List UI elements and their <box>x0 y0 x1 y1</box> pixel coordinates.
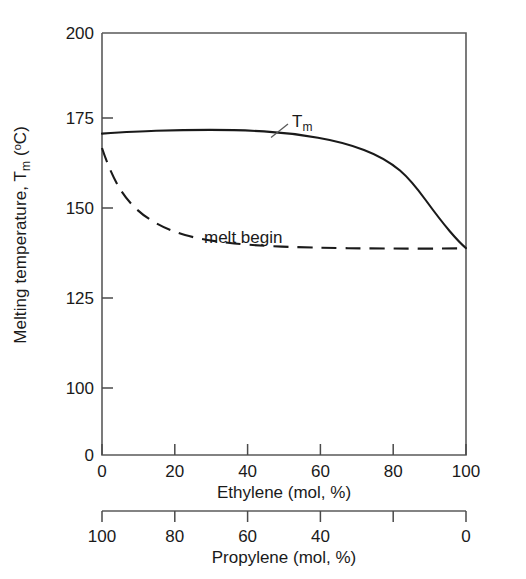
secondary-x-tick-label-100: 100 <box>88 528 116 545</box>
secondary-x-axis-ticks <box>102 511 466 522</box>
secondary-x-tick-label-60: 60 <box>238 528 257 545</box>
x-tick-label-80: 80 <box>384 463 403 480</box>
series-label-tm: Tm <box>292 113 312 133</box>
secondary-x-axis <box>102 511 466 522</box>
x-axis-ticks <box>102 444 466 455</box>
secondary-x-tick-label-80: 80 <box>165 528 184 545</box>
secondary-x-tick-label-0: 0 <box>461 528 470 545</box>
chart-figure: Melting temperature, Tm (oC) 200 175 150… <box>0 0 526 579</box>
x-tick-label-20: 20 <box>165 463 184 480</box>
x-tick-label-60: 60 <box>311 463 330 480</box>
x-axis-title-ethylene: Ethylene (mol, %) <box>217 484 351 501</box>
x-axis-title-propylene: Propylene (mol, %) <box>212 549 357 566</box>
series-line-melt-begin <box>102 148 466 249</box>
plot-frame <box>102 33 466 455</box>
series-label-melt-begin: melt begin <box>204 229 282 246</box>
secondary-x-tick-label-40: 40 <box>311 528 330 545</box>
x-tick-label-40: 40 <box>238 463 257 480</box>
x-tick-label-0: 0 <box>97 463 106 480</box>
x-tick-label-100: 100 <box>452 463 480 480</box>
series-label-tm-subscript: m <box>302 120 312 134</box>
tm-leader-line <box>271 124 288 138</box>
series-line-tm <box>102 130 466 248</box>
y-axis-ticks <box>102 118 113 388</box>
series-label-tm-text: T <box>292 112 302 131</box>
